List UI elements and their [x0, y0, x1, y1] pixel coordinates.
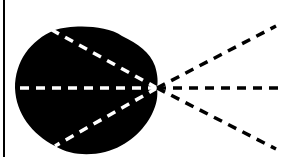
- radiation-pattern-diagram: [0, 0, 285, 157]
- diagram-canvas: [0, 0, 285, 157]
- outer-rays: [157, 26, 285, 149]
- outer-ray-upper: [157, 26, 276, 88]
- lobe-blob: [15, 26, 158, 154]
- outer-ray-lower: [157, 88, 276, 149]
